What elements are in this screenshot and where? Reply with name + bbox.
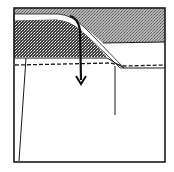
vertical-line-left bbox=[19, 58, 26, 161]
dashed-horizon-line bbox=[15, 63, 165, 66]
diagram-canvas bbox=[0, 0, 174, 172]
cross-section-diagram bbox=[0, 0, 174, 172]
